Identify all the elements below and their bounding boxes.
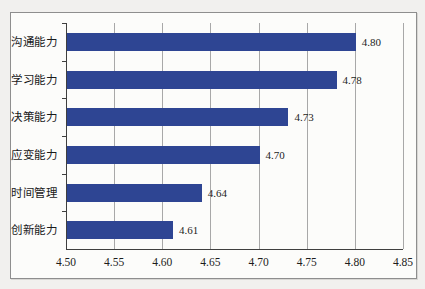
bar xyxy=(67,33,356,51)
gridline xyxy=(259,23,260,249)
bar xyxy=(67,146,260,164)
bar xyxy=(67,184,202,202)
category-label: 应变能力 xyxy=(11,148,57,162)
value-label: 4.61 xyxy=(179,221,198,239)
y-axis-tick xyxy=(62,211,66,212)
x-tick-label: 4.55 xyxy=(92,256,136,268)
y-axis-tick xyxy=(62,23,66,24)
value-label: 4.80 xyxy=(362,33,381,51)
value-label: 4.70 xyxy=(266,146,285,164)
category-label: 学习能力 xyxy=(11,73,57,87)
x-tick-label: 4.85 xyxy=(381,256,425,268)
category-label: 创新能力 xyxy=(11,223,57,237)
y-axis-tick xyxy=(62,174,66,175)
bar xyxy=(67,108,288,126)
category-label: 沟通能力 xyxy=(11,35,57,49)
gridline xyxy=(114,23,115,249)
value-label: 4.64 xyxy=(208,184,227,202)
x-tick-label: 4.80 xyxy=(333,256,377,268)
bar xyxy=(67,221,173,239)
gridline xyxy=(210,23,211,249)
gridline xyxy=(355,23,356,249)
x-tick-label: 4.65 xyxy=(188,256,232,268)
x-axis xyxy=(66,249,403,250)
y-axis xyxy=(66,23,67,249)
chart-frame: 4.804.784.734.704.644.61 沟通能力学习能力决策能力应变能… xyxy=(10,12,417,279)
gridline xyxy=(307,23,308,249)
x-tick-label: 4.50 xyxy=(44,256,88,268)
value-label: 4.78 xyxy=(343,71,362,89)
x-tick-label: 4.75 xyxy=(285,256,329,268)
y-axis-tick xyxy=(62,136,66,137)
y-axis-tick xyxy=(62,98,66,99)
value-label: 4.73 xyxy=(294,108,313,126)
chart-page: 4.804.784.734.704.644.61 沟通能力学习能力决策能力应变能… xyxy=(0,0,425,289)
x-tick-label: 4.70 xyxy=(237,256,281,268)
plot-area: 4.804.784.734.704.644.61 xyxy=(66,23,403,249)
category-label: 决策能力 xyxy=(11,110,57,124)
x-tick-label: 4.60 xyxy=(140,256,184,268)
bar xyxy=(67,71,337,89)
category-label: 时间管理 xyxy=(11,186,57,200)
gridline xyxy=(403,23,404,249)
gridline xyxy=(162,23,163,249)
y-axis-tick xyxy=(62,61,66,62)
